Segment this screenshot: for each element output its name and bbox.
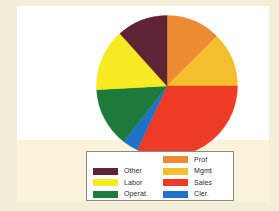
legend-label: Other xyxy=(124,167,142,175)
legend-column-right: ProfMgmtSalesCler. xyxy=(163,152,231,200)
figure-canvas: OtherLaborOperat. ProfMgmtSalesCler. xyxy=(0,0,279,211)
legend-item[interactable]: Cler. xyxy=(163,189,231,201)
legend-swatch-mgmt xyxy=(163,168,188,175)
legend-swatch-sales xyxy=(163,179,188,186)
legend-item[interactable]: Labor xyxy=(93,177,161,189)
pie-chart-svg xyxy=(96,15,238,157)
legend-label: Labor xyxy=(124,179,142,187)
legend-item[interactable]: Mgmt xyxy=(163,166,231,178)
legend-column-left: OtherLaborOperat. xyxy=(93,152,161,200)
legend-label: Prof xyxy=(194,156,207,164)
legend-label: Sales xyxy=(194,179,212,187)
legend-label: Cler. xyxy=(194,190,209,198)
legend-swatch-prof xyxy=(163,156,188,163)
legend-item[interactable]: Prof xyxy=(163,154,231,166)
legend-swatch-other xyxy=(93,168,118,175)
pie-chart xyxy=(96,15,238,157)
legend-swatch-cler xyxy=(163,191,188,198)
legend-item[interactable]: Other xyxy=(93,166,161,178)
figure-plate: OtherLaborOperat. ProfMgmtSalesCler. xyxy=(17,6,269,202)
legend-label: Mgmt xyxy=(194,167,212,175)
legend: OtherLaborOperat. ProfMgmtSalesCler. xyxy=(86,151,234,201)
legend-swatch-operat xyxy=(93,191,118,198)
legend-item[interactable]: Sales xyxy=(163,177,231,189)
legend-item[interactable]: Operat. xyxy=(93,189,161,201)
legend-label: Operat. xyxy=(124,190,148,198)
legend-swatch-labor xyxy=(93,179,118,186)
